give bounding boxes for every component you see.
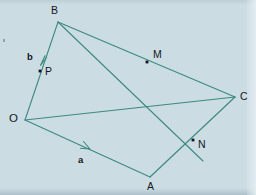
point-dot-group — [39, 61, 195, 142]
point-dot-P — [39, 70, 42, 73]
point-label-N: N — [198, 139, 206, 150]
vector-label-a: a — [78, 155, 83, 165]
vertex-label-B: B — [51, 5, 58, 16]
segment-BC — [58, 22, 235, 97]
diagram-canvas: O B C A M N P a b — [0, 0, 256, 195]
scan-speck — [3, 39, 5, 42]
segment-O-to-C-through-M — [25, 97, 235, 120]
segment-B-to-A-through-N — [58, 22, 203, 161]
vector-label-b: b — [27, 52, 33, 62]
vertex-label-C: C — [240, 91, 248, 102]
vertex-label-A: A — [147, 181, 154, 192]
segment-OB — [25, 22, 58, 120]
segment-AC — [150, 97, 235, 177]
point-label-M: M — [153, 49, 162, 60]
point-label-P: P — [45, 66, 52, 77]
geometry-svg — [0, 0, 256, 195]
point-dot-N — [192, 139, 195, 142]
point-dot-M — [146, 61, 149, 64]
segment-group — [25, 22, 235, 177]
vertex-label-O: O — [9, 113, 18, 125]
